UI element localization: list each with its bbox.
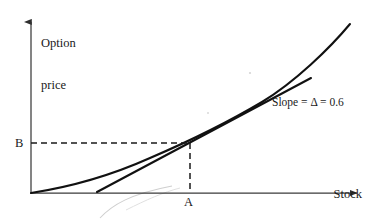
scan-artifact-arc	[100, 186, 172, 218]
point-label-a: A	[184, 195, 193, 209]
point-label-b: B	[15, 136, 23, 150]
scan-artifact-speck-upper	[249, 72, 251, 74]
y-axis-label-line1: Option	[41, 36, 76, 50]
option-delta-figure: Option price Stock price Slope = Δ = 0.6…	[0, 0, 379, 223]
scan-artifact-arc-secondary	[126, 188, 180, 210]
x-axis-label-line1: Stock	[300, 187, 362, 201]
y-axis-label: Option price	[41, 8, 76, 120]
y-axis-label-line2: price	[41, 78, 76, 92]
slope-annotation: Slope = Δ = 0.6	[272, 96, 344, 109]
x-axis-label: Stock price	[300, 159, 362, 223]
scan-artifact-speck-middle	[207, 112, 209, 114]
